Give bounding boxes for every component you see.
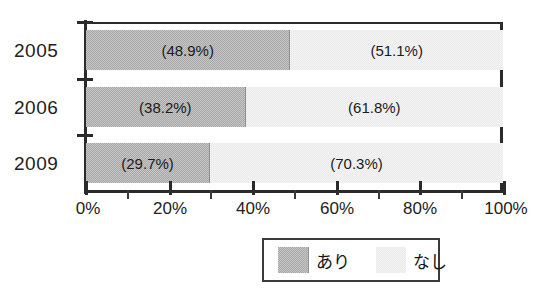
bar-segment-2009-nashi: (70.3%) <box>210 143 503 183</box>
x-axis-label-20: 20% <box>153 199 187 219</box>
bar-segment-2006-nashi: (61.8%) <box>246 87 503 127</box>
bar-segment-2005-ari: (48.9%) <box>86 30 290 70</box>
bar-value-label-2009-ari: (29.7%) <box>121 155 174 172</box>
legend-label-ari: あり <box>316 248 350 273</box>
x-tick-minor-10 <box>127 190 129 199</box>
bar-value-label-2005-ari: (48.9%) <box>161 42 214 59</box>
y-tick-top <box>77 21 93 24</box>
x-tick-minor-70 <box>378 190 380 199</box>
x-axis-label-80: 80% <box>403 199 437 219</box>
legend-swatch-nashi-icon <box>376 247 406 273</box>
bar-value-label-2006-nashi: (61.8%) <box>348 99 401 116</box>
bar-segment-2005-nashi: (51.1%) <box>290 30 503 70</box>
x-axis-label-0: 0% <box>76 199 101 219</box>
x-tick-major-0 <box>85 181 88 195</box>
x-tick-major-60 <box>336 181 339 195</box>
legend-swatch-ari-icon <box>278 247 309 273</box>
x-tick-minor-90 <box>461 190 463 199</box>
x-axis-label-60: 60% <box>320 199 354 219</box>
legend-item-nashi: なし <box>376 247 447 273</box>
x-axis-label-40: 40% <box>236 199 270 219</box>
x-tick-major-80 <box>419 181 422 195</box>
legend-label-nashi: なし <box>413 248 447 273</box>
y-tick-2006-2009 <box>77 134 93 137</box>
x-axis-label-100: 100% <box>484 199 527 219</box>
y-axis-label-2006: 2006 <box>14 97 74 119</box>
bar-segment-2006-ari: (38.2%) <box>86 87 246 127</box>
x-tick-minor-50 <box>294 190 296 199</box>
x-tick-major-100 <box>503 181 506 195</box>
legend: あり なし <box>262 238 440 282</box>
y-tick-2005-2006 <box>77 78 93 81</box>
y-axis-label-2005: 2005 <box>14 40 74 62</box>
bar-value-label-2005-nashi: (51.1%) <box>370 42 423 59</box>
bar-value-label-2009-nashi: (70.3%) <box>330 155 383 172</box>
bar-value-label-2006-ari: (38.2%) <box>139 99 192 116</box>
x-tick-minor-30 <box>210 190 212 199</box>
y-axis-label-2009: 2009 <box>14 153 74 175</box>
x-tick-major-40 <box>252 181 255 195</box>
x-tick-major-20 <box>169 181 172 195</box>
bar-segment-2009-ari: (29.7%) <box>86 143 210 183</box>
stacked-bar-chart: 2005 2006 2009 (48.9%) (51.1%) (38.2%) (… <box>0 0 538 293</box>
legend-item-ari: あり <box>278 247 350 273</box>
